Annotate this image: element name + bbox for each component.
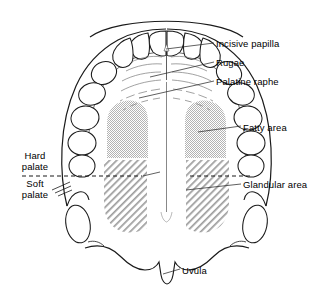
tooth-central-incisor-left [149,31,166,56]
label-glandular-area: Glandular area [243,179,307,190]
tooth-central-incisor-right [167,31,184,56]
leader-palatine-raphe [139,81,214,98]
fold-detail-right [230,241,246,246]
palate-anatomy-figure: Incisive papilla Rugae Palatine raphe Fa… [0,0,333,293]
tooth-molar3-left [69,155,95,177]
label-rugae: Rugae [216,57,245,68]
tooth-molar1-left [69,104,100,132]
label-uvula: Uvula [182,265,207,276]
tooth-molar2-right [237,131,265,155]
label-palatine-raphe: Palatine raphe [216,76,279,87]
tooth-molar2-left [68,131,96,155]
raphe-terminus [161,212,172,222]
label-incisive-papilla: Incisive papilla [216,38,279,49]
label-hard-palate: Hard palate [12,150,58,172]
tooth-molar3-right [238,155,264,177]
tonsillar-pillar-left [63,203,94,245]
soft-palate-edge-right [244,192,266,206]
soft-palate-free-margin [85,246,249,284]
tooth-canine-left [113,38,133,67]
label-soft-palate: Soft palate [12,178,58,200]
fold-detail-left [88,241,104,246]
leader-uvula [163,269,180,274]
soft-palate-edge-left [67,192,89,206]
palate-diagram [0,0,333,293]
tonsillar-pillar-right [240,203,271,245]
label-fatty-area: Fatty area [243,122,287,133]
